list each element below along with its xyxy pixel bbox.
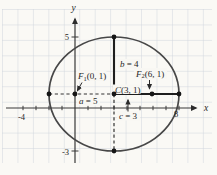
label-c: c = 3 <box>119 111 138 121</box>
label-f2: F2(6, 1) <box>135 69 164 80</box>
grid-background <box>2 9 212 163</box>
axis-label-y: y <box>71 3 77 13</box>
dot-focus-f2 <box>150 92 155 97</box>
axis-label-x: x <box>203 103 209 113</box>
label-f1: F1(0, 1) <box>77 71 106 82</box>
tick-label-x-neg4: -4 <box>18 112 26 122</box>
dot-top-covertex <box>112 35 117 40</box>
figure-stage: x y 5 -3 -4 8 F1(0, 1) F2(6, 1) C(3, 1) … <box>0 0 217 175</box>
label-a: a = 5 <box>79 96 98 106</box>
tick-label-y5: 5 <box>65 32 69 42</box>
dot-left-vertex <box>47 92 52 97</box>
ellipse-figure: x y 5 -3 -4 8 F1(0, 1) F2(6, 1) C(3, 1) … <box>0 0 217 175</box>
dot-right-vertex <box>177 92 182 97</box>
label-center: C(3, 1) <box>115 85 141 95</box>
dot-bottom-covertex <box>112 149 117 154</box>
tick-label-x8: 8 <box>174 109 178 119</box>
tick-label-y-neg3: -3 <box>62 147 69 157</box>
label-b: b = 4 <box>120 59 139 69</box>
dot-focus-f1 <box>73 92 78 97</box>
